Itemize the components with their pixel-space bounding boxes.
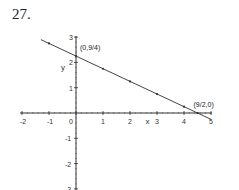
x-tick-label: 1: [101, 118, 105, 125]
series-line: [41, 40, 211, 120]
x-axis-label: x: [146, 117, 150, 126]
annotation-x-intercept: (9/2,0): [194, 101, 214, 109]
data-point: [102, 68, 104, 70]
y-axis-label: y: [61, 63, 65, 72]
annotation-y-intercept: (0,9/4): [80, 44, 100, 52]
data-point: [156, 93, 158, 95]
data-point: [183, 106, 185, 108]
x-tick-label: 2: [128, 118, 132, 125]
x-tick-label: -2: [20, 118, 26, 125]
data-point: [75, 55, 77, 57]
y-tick-label: 2: [69, 59, 73, 66]
line-chart: -2-1012345321-1-2-3xy(0,9/4)(9/2,0): [0, 0, 239, 190]
y-tick-label: -3: [65, 186, 71, 190]
data-point: [196, 112, 198, 114]
data-point: [48, 42, 50, 44]
data-point: [129, 80, 131, 82]
y-tick-label: 1: [69, 85, 73, 92]
y-tick-label: -1: [65, 135, 71, 142]
y-tick-label: -2: [65, 161, 71, 168]
x-tick-label: 0: [69, 118, 73, 125]
x-tick-label: -1: [47, 118, 53, 125]
x-tick-label: 4: [182, 118, 186, 125]
y-tick-label: 3: [69, 34, 73, 41]
x-tick-label: 3: [155, 118, 159, 125]
